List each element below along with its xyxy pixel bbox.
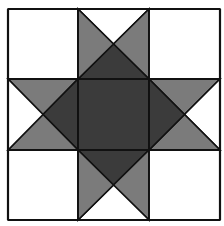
cell-r1c1-square <box>78 79 149 150</box>
cell-r2c2-square <box>149 150 220 220</box>
quilt-cells <box>8 9 220 220</box>
cell-r0c2-square <box>149 9 220 79</box>
cell-r2c0-square <box>8 150 78 220</box>
cell-r0c0-square <box>8 9 78 79</box>
quilt-block-diagram <box>0 0 224 226</box>
